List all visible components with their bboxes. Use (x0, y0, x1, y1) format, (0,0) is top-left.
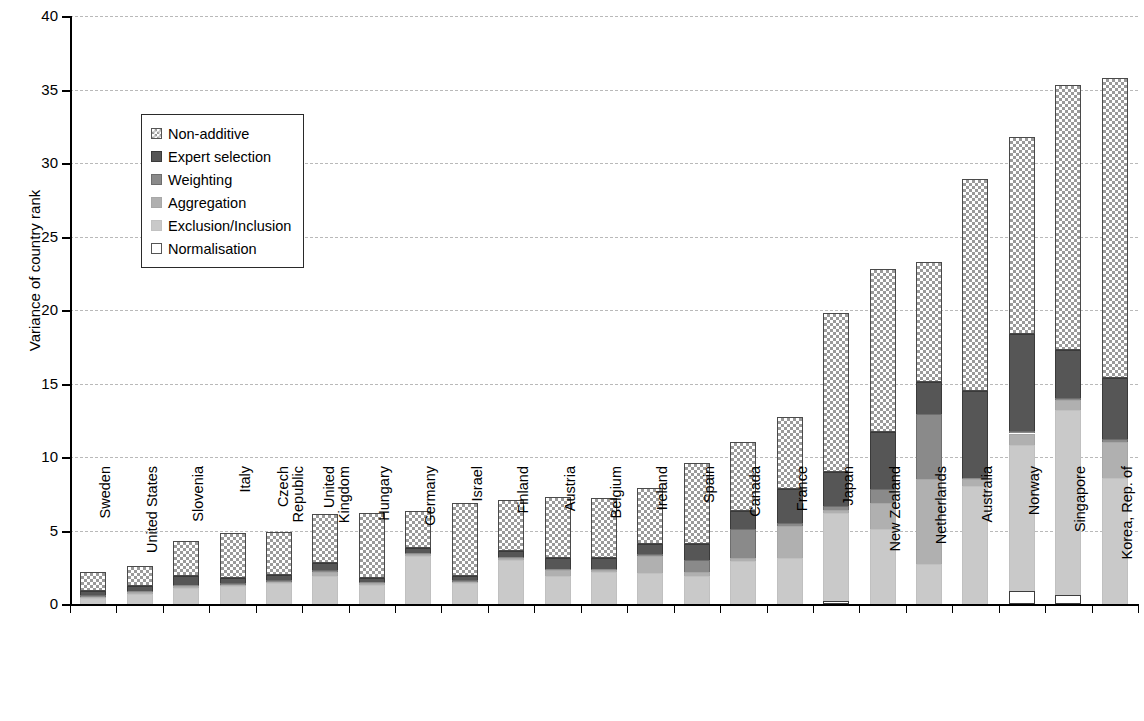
segment-non-additive (1009, 137, 1035, 334)
legend-item-exclusion-inclusion[interactable]: Exclusion/Inclusion (151, 214, 295, 237)
x-axis-line (70, 604, 1138, 606)
legend-item-normalisation[interactable]: Normalisation (151, 237, 295, 260)
x-tick-10 (534, 604, 535, 613)
segment-non-additive (823, 313, 849, 472)
legend-label: Exclusion/Inclusion (168, 219, 291, 233)
y-tick-30 (62, 163, 70, 165)
x-tick-4 (256, 604, 257, 613)
exclusion-inclusion-swatch (151, 220, 162, 231)
x-label-belgium: Belgium (609, 466, 624, 616)
legend-label: Weighting (168, 173, 232, 187)
x-label-australia: Australia (980, 466, 995, 616)
y-tick-0 (62, 604, 70, 606)
x-tick-0 (70, 604, 71, 613)
x-label-austria: Austria (563, 466, 578, 616)
legend-label: Non-additive (168, 127, 249, 141)
x-tick-14 (720, 604, 721, 613)
x-label-israel: Israel (470, 466, 485, 616)
y-tick-25 (62, 237, 70, 239)
legend-item-aggregation[interactable]: Aggregation (151, 191, 295, 214)
x-label-spain: Spain (702, 466, 717, 616)
x-label-italy: Italy (238, 466, 253, 616)
y-tick-label-40: 40 (18, 8, 58, 23)
x-label-singapore: Singapore (1073, 466, 1088, 616)
x-tick-3 (209, 604, 210, 613)
aggregation-swatch (151, 197, 162, 208)
x-label-korea-rep-of: Korea, Rep. of (1120, 466, 1135, 616)
legend-label: Expert selection (168, 150, 271, 164)
x-label-czech-republic: CzechRepublic (276, 466, 306, 616)
x-label-netherlands: Netherlands (934, 466, 949, 616)
x-label-sweden: Sweden (98, 466, 113, 616)
y-tick-15 (62, 384, 70, 386)
legend-label: Normalisation (168, 242, 257, 256)
segment-expert-selection (962, 391, 988, 478)
segment-weighting (1009, 431, 1035, 434)
stacked-bar-chart: Variance of country rank 051015202530354… (0, 0, 1144, 721)
segment-non-additive (916, 262, 942, 383)
y-tick-label-15: 15 (18, 376, 58, 391)
legend: Non-additiveExpert selectionWeightingAgg… (141, 114, 304, 268)
segment-expert-selection (1009, 334, 1035, 431)
legend-label: Aggregation (168, 196, 246, 210)
x-label-ireland: Ireland (655, 466, 670, 616)
segment-expert-selection (1055, 350, 1081, 399)
y-tick-label-30: 30 (18, 155, 58, 170)
segment-aggregation (1009, 434, 1035, 446)
y-tick-35 (62, 90, 70, 92)
y-tick-5 (62, 531, 70, 533)
segment-non-additive (1102, 78, 1128, 378)
x-label-new-zealand: New Zealand (888, 466, 903, 616)
expert-selection-swatch (151, 151, 162, 162)
x-label-france: France (795, 466, 810, 616)
x-tick-1 (116, 604, 117, 613)
segment-expert-selection (1102, 378, 1128, 440)
x-label-slovenia: Slovenia (191, 466, 206, 616)
x-label-finland: Finland (516, 466, 531, 616)
x-label-germany: Germany (423, 466, 438, 616)
y-tick-label-35: 35 (18, 82, 58, 97)
legend-item-expert-selection[interactable]: Expert selection (151, 145, 295, 168)
y-tick-40 (62, 16, 70, 18)
x-label-canada: Canada (748, 466, 763, 616)
x-tick-13 (674, 604, 675, 613)
x-tick-16 (813, 604, 814, 613)
y-tick-10 (62, 457, 70, 459)
non-additive-swatch (151, 128, 162, 139)
plot-area (70, 16, 1138, 604)
y-tick-20 (62, 310, 70, 312)
x-tick-8 (441, 604, 442, 613)
x-tick-12 (627, 604, 628, 613)
segment-non-additive (1055, 85, 1081, 350)
normalisation-swatch (151, 243, 162, 254)
legend-item-non-additive[interactable]: Non-additive (151, 122, 295, 145)
weighting-swatch (151, 174, 162, 185)
legend-item-weighting[interactable]: Weighting (151, 168, 295, 191)
x-label-norway: Norway (1027, 466, 1042, 616)
x-tick-22 (1092, 604, 1093, 613)
x-tick-19 (952, 604, 953, 613)
y-tick-label-25: 25 (18, 229, 58, 244)
x-label-united-states: United States (145, 466, 160, 616)
x-tick-18 (906, 604, 907, 613)
x-tick-2 (163, 604, 164, 613)
x-tick-9 (488, 604, 489, 613)
segment-non-additive (962, 179, 988, 391)
y-tick-label-0: 0 (18, 596, 58, 611)
segment-expert-selection (916, 382, 942, 414)
y-axis-title: Variance of country rank (26, 141, 43, 401)
segment-aggregation (1055, 400, 1081, 410)
y-tick-label-10: 10 (18, 449, 58, 464)
y-tick-label-5: 5 (18, 523, 58, 538)
x-label-hungary: Hungary (377, 466, 392, 616)
y-tick-label-20: 20 (18, 302, 58, 317)
x-label-united-kingdom: UnitedKingdom (322, 466, 352, 616)
segment-weighting (1102, 439, 1128, 442)
y-axis-line (70, 16, 72, 604)
x-tick-end (1138, 604, 1139, 613)
x-tick-7 (395, 604, 396, 613)
segment-non-additive (870, 269, 896, 432)
x-tick-11 (581, 604, 582, 613)
x-tick-15 (767, 604, 768, 613)
x-label-japan: Japan (841, 466, 856, 616)
